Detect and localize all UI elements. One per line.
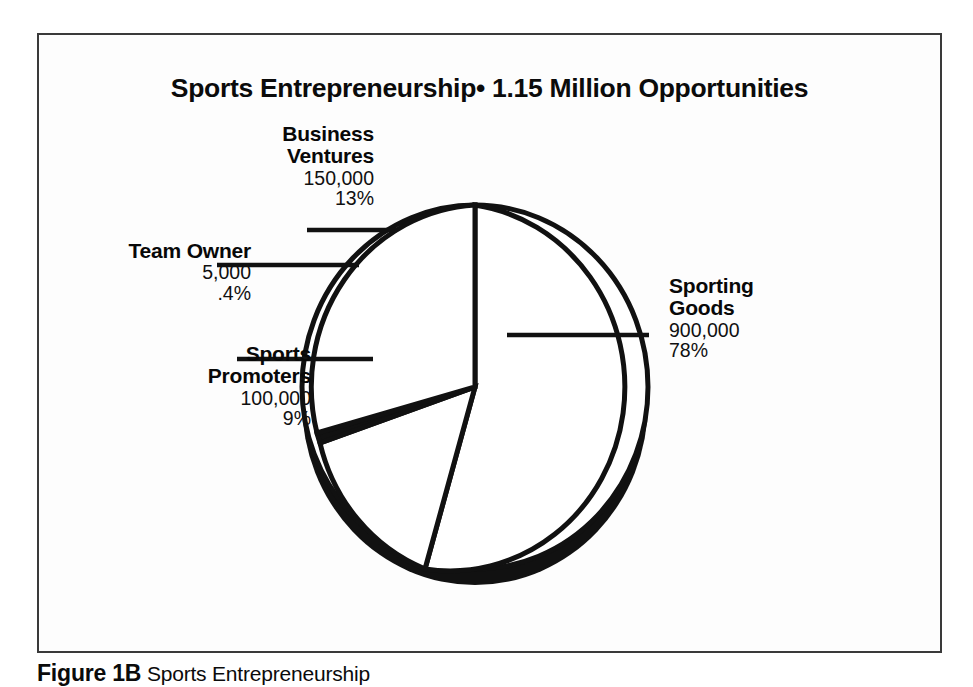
callout-sporting-goods-percent: 78% bbox=[669, 340, 884, 361]
callout-business-ventures-name-line1: Business bbox=[159, 123, 374, 145]
callout-team-owner-value: 5,000 bbox=[39, 262, 251, 283]
figure-frame: Sports Entrepreneurship• 1.15 Million Op… bbox=[37, 33, 942, 653]
figure-caption-label: Figure 1B bbox=[37, 660, 141, 686]
callout-team-owner-percent: .4% bbox=[39, 283, 251, 304]
callout-sports-promoters-name-line1: Sports bbox=[99, 343, 311, 365]
callout-sporting-goods: Sporting Goods 900,000 78% bbox=[669, 275, 884, 361]
callout-sporting-goods-name-line1: Sporting bbox=[669, 275, 884, 297]
figure-caption-text: Sports Entrepreneurship bbox=[141, 662, 370, 685]
callout-team-owner-name-line1: Team Owner bbox=[39, 240, 251, 262]
callout-business-ventures: Business Ventures 150,000 13% bbox=[159, 123, 374, 209]
callout-sports-promoters: Sports Promoters 100,000 9% bbox=[99, 343, 311, 429]
callout-sports-promoters-value: 100,000 bbox=[99, 388, 311, 409]
callout-sports-promoters-percent: 9% bbox=[99, 408, 311, 429]
callout-business-ventures-value: 150,000 bbox=[159, 168, 374, 189]
callout-business-ventures-name-line2: Ventures bbox=[159, 145, 374, 167]
callout-business-ventures-percent: 13% bbox=[159, 188, 374, 209]
figure-caption: Figure 1B Sports Entrepreneurship bbox=[37, 660, 370, 687]
callout-sporting-goods-value: 900,000 bbox=[669, 320, 884, 341]
callout-sporting-goods-name-line2: Goods bbox=[669, 297, 884, 319]
callout-sports-promoters-name-line2: Promoters bbox=[99, 365, 311, 387]
callout-team-owner: Team Owner 5,000 .4% bbox=[39, 240, 251, 304]
